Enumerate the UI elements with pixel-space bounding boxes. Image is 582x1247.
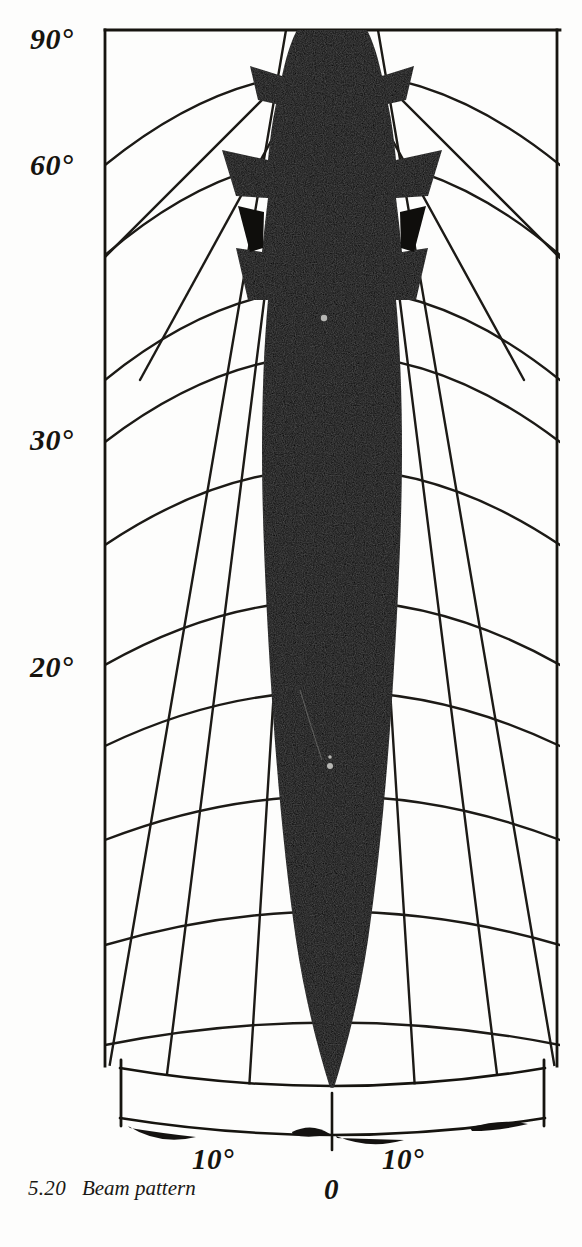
elevation-tick-20: 20° bbox=[30, 650, 74, 684]
azimuth-tick-left-10: 10° bbox=[192, 1143, 234, 1176]
figure-caption: 5.20Beam pattern bbox=[28, 1176, 196, 1201]
figure-title: Beam pattern bbox=[82, 1176, 196, 1200]
main-beam-lobe bbox=[222, 26, 442, 1094]
azimuth-tick-zero: 0 bbox=[324, 1173, 339, 1206]
elevation-tick-60: 60° bbox=[30, 148, 74, 182]
elevation-tick-90: 90° bbox=[30, 22, 74, 56]
lower-sidelobes bbox=[128, 1122, 528, 1144]
beam-pattern-plot bbox=[0, 0, 582, 1247]
figure-number: 5.20 bbox=[28, 1176, 66, 1200]
elevation-tick-30: 30° bbox=[30, 423, 74, 457]
azimuth-tick-right-10: 10° bbox=[382, 1143, 424, 1176]
figure-page: 90° 60° 30° 20° 10° 10° 0 5.20Beam patte… bbox=[0, 0, 582, 1247]
